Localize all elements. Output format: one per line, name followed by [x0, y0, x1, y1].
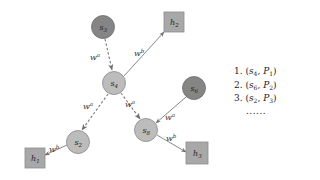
edge-s4-h2 — [124, 32, 164, 76]
edge-label-s6-s8: wa — [165, 112, 175, 122]
legend-ellipsis: ...... — [234, 107, 277, 115]
edge-label-s2-h1: wb — [49, 144, 60, 154]
node-s2: s2 — [67, 131, 90, 154]
ranking-legend: 1. (s4, P1) 2. (s6, P2) 3. (s2, P3) ....… — [234, 66, 277, 115]
edge-label-s8-h3: wb — [166, 133, 177, 143]
legend-item: 1. (s4, P1) — [234, 66, 277, 80]
legend-item: 2. (s6, P2) — [234, 80, 277, 94]
node-h2: h2 — [164, 12, 184, 32]
node-s8: s8 — [135, 119, 158, 142]
node-s6: s6 — [183, 77, 206, 100]
edge-label-s4-s2: wa — [83, 101, 93, 111]
node-s4: s4 — [103, 72, 126, 95]
legend-item: 3. (s2, P3) — [234, 93, 277, 107]
edge-label-s4-h2: wb — [134, 48, 145, 58]
edge-s4-s2 — [82, 94, 108, 130]
edge-s3-s4 — [105, 39, 112, 70]
node-s3: s3 — [92, 16, 115, 39]
edge-label-s3-s4: wa — [90, 52, 100, 62]
edge-label-s4-s8: wa — [125, 99, 135, 109]
node-h1: h1 — [25, 148, 45, 168]
node-h3: h3 — [186, 142, 208, 164]
